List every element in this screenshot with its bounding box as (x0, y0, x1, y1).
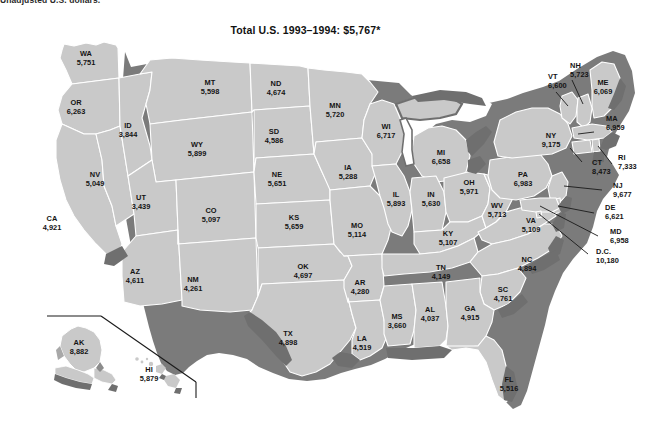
state-shape-CT (572, 140, 592, 154)
state-shape-RI (592, 139, 600, 152)
us-choropleth-map (0, 0, 649, 439)
figure-root: Unadjusted U.S. dollars. Total U.S. 1993… (0, 0, 649, 439)
state-shape-MD (520, 198, 560, 212)
state-shape-AL (412, 282, 448, 348)
state-shape-KS (256, 200, 334, 248)
state-shape-ND (250, 63, 310, 112)
state-shape-OR (58, 78, 120, 134)
state-shape-WA (60, 42, 119, 84)
alaska-shape (54, 326, 118, 392)
state-shape-WY (150, 112, 254, 182)
state-shape-AZ (122, 230, 182, 306)
state-shape-CO (176, 172, 256, 244)
state-shape-IN (410, 176, 446, 232)
state-shape-AR (344, 254, 384, 302)
map-svg (0, 0, 649, 439)
state-shape-NH (577, 94, 592, 128)
state-shape-MS (380, 284, 416, 346)
